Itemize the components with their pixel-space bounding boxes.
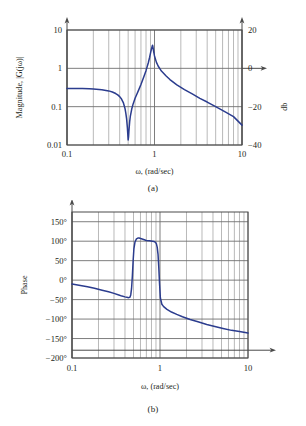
magnitude-plot-svg: 0.11101010.10.01200−20−40Magnitude, |G(j… bbox=[0, 0, 306, 205]
mag-ytick-label-right: −40 bbox=[248, 140, 261, 150]
phase-ytick-label: 150° bbox=[51, 217, 68, 227]
phase-ytick-label: 50° bbox=[55, 256, 68, 266]
mag-ytick-label-left: 1 bbox=[58, 63, 62, 73]
mag-xtick-label: 1 bbox=[152, 149, 156, 159]
phase-xtick-label: 0.1 bbox=[67, 363, 78, 373]
caption-b: (b) bbox=[0, 404, 306, 414]
phase-xtick-label: 1 bbox=[158, 363, 162, 373]
caption-a: (a) bbox=[0, 183, 306, 193]
magnitude-bode-figure: 0.11101010.10.01200−20−40Magnitude, |G(j… bbox=[0, 0, 306, 205]
mag-ytick-label-left: 0.01 bbox=[47, 140, 62, 150]
mag-xtick-label: 0.1 bbox=[62, 149, 73, 159]
phase-plot-svg: 0.1110150°100°50°0°−50°−100°−150°−200°Ph… bbox=[0, 200, 306, 426]
phase-ytick-label: −100° bbox=[46, 314, 68, 324]
phase-ytick-label: −200° bbox=[46, 353, 68, 363]
phase-xtick-label: 10 bbox=[244, 363, 253, 373]
mag-x-axis-title: ω, (rad/sec) bbox=[135, 167, 173, 176]
mag-db-axis-title: db bbox=[280, 103, 289, 111]
phase-ytick-label: 100° bbox=[51, 236, 68, 246]
phase-ytick-label: −50° bbox=[50, 295, 67, 305]
mag-ytick-label-right: −20 bbox=[248, 102, 261, 112]
mag-ytick-label-left: 10 bbox=[53, 25, 62, 35]
phase-y-axis-title: Phase bbox=[20, 275, 29, 294]
mag-ytick-label-left: 0.1 bbox=[51, 102, 62, 112]
phase-ytick-label: 0° bbox=[59, 275, 67, 285]
phase-x-axis-title: ω, (rad/sec) bbox=[141, 382, 179, 391]
mag-ytick-label-right: 0 bbox=[248, 63, 252, 73]
phase-ytick-label: −150° bbox=[46, 334, 68, 344]
mag-xtick-label: 10 bbox=[238, 149, 247, 159]
mag-y-axis-title: Magnitude, |G(jω)| bbox=[15, 56, 24, 118]
mag-ytick-label-right: 20 bbox=[248, 25, 257, 35]
phase-bode-figure: 0.1110150°100°50°0°−50°−100°−150°−200°Ph… bbox=[0, 200, 306, 426]
